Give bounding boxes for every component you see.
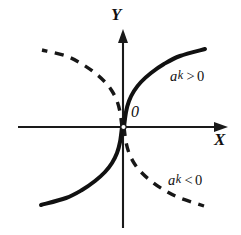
y-axis-label: Y bbox=[111, 6, 121, 23]
figure-canvas bbox=[0, 0, 241, 235]
curve-figure: Y X 0 ak>0 ak<0 bbox=[0, 0, 241, 235]
curve-quadrant-4-dashed bbox=[124, 127, 204, 206]
condition-label-negative: ak<0 bbox=[168, 173, 203, 188]
condition-relation-positive: > bbox=[183, 68, 197, 84]
condition-label-positive: ak>0 bbox=[170, 69, 205, 84]
condition-value-negative: 0 bbox=[195, 172, 203, 188]
y-axis-arrowhead bbox=[118, 29, 128, 43]
condition-variable-negative: a bbox=[168, 172, 176, 188]
x-axis-label: X bbox=[214, 131, 225, 148]
curve-quadrant-2-dashed bbox=[42, 50, 122, 127]
origin-point-marker bbox=[121, 124, 126, 129]
curve-quadrant-3-solid bbox=[41, 127, 122, 205]
condition-variable-positive: a bbox=[170, 68, 178, 84]
condition-value-positive: 0 bbox=[197, 68, 205, 84]
condition-relation-negative: < bbox=[181, 172, 195, 188]
origin-label: 0 bbox=[131, 104, 139, 120]
